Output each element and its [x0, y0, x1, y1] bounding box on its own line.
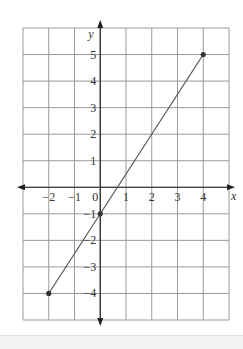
x-axis-label: x: [230, 189, 237, 203]
x-tick-label: 1: [123, 190, 129, 204]
x-tick-label: −2: [42, 190, 55, 204]
y-tick-label: 5: [90, 48, 96, 62]
x-tick-label: 3: [175, 190, 181, 204]
y-tick-label: 4: [90, 74, 96, 88]
y-tick-label: 1: [90, 154, 96, 168]
tick-labels: −2−10123454321−1−2−3−4: [42, 48, 206, 301]
data-point: [46, 291, 51, 296]
y-tick-label: −2: [83, 233, 96, 247]
x-tick-label: 2: [149, 190, 155, 204]
x-tick-label: 0: [92, 190, 98, 204]
data-point: [98, 211, 103, 216]
y-tick-label: 3: [90, 101, 96, 115]
y-axis-label: y: [87, 27, 94, 41]
x-tick-label: −1: [68, 190, 81, 204]
footer-bar: [0, 335, 243, 349]
y-tick-label: 2: [90, 127, 96, 141]
line-graph: −2−10123454321−1−2−3−4 x y: [0, 0, 243, 335]
y-tick-label: −3: [83, 260, 96, 274]
x-tick-label: 4: [200, 190, 206, 204]
data-point: [201, 52, 206, 57]
y-tick-label: −1: [83, 207, 96, 221]
y-tick-label: −4: [83, 286, 96, 300]
